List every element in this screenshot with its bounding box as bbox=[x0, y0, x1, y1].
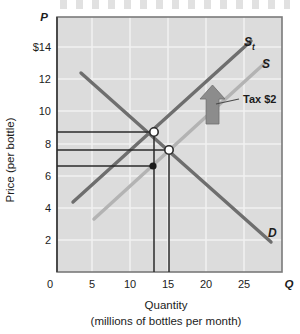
x-tick-label-15: 15 bbox=[162, 278, 174, 290]
curve-label-supply: S bbox=[262, 57, 270, 71]
curve-label-demand: D bbox=[268, 226, 277, 240]
x-tick-label-10: 10 bbox=[124, 278, 136, 290]
x-axis-title: Quantity bbox=[145, 299, 188, 311]
y-tick-label-8: 8 bbox=[45, 138, 51, 150]
marker-equilibrium-with-tax bbox=[150, 128, 158, 136]
tax-annotation-label: Tax $2 bbox=[243, 93, 276, 105]
marker-equilibrium-original bbox=[165, 146, 173, 154]
y-tick-label-10: 10 bbox=[39, 105, 51, 117]
y-axis-title: Price (per bottle) bbox=[4, 117, 16, 202]
y-tick-label-2: 2 bbox=[45, 234, 51, 246]
x-tick-label-25: 25 bbox=[238, 278, 250, 290]
y-tick-label-12: 12 bbox=[39, 73, 51, 85]
x-tick-label-0: 0 bbox=[47, 278, 53, 290]
x-tick-label-20: 20 bbox=[200, 278, 212, 290]
marker-price-received-by-sellers bbox=[149, 162, 156, 169]
y-tick-label-4: 4 bbox=[45, 202, 51, 214]
x-tick-label-5: 5 bbox=[89, 278, 95, 290]
x-axis-subtitle: (millions of bottles per month) bbox=[91, 315, 242, 327]
y-axis-symbol: P bbox=[40, 11, 48, 23]
y-tick-label-6: 6 bbox=[45, 170, 51, 182]
supply-demand-tax-chart: P Q $14 12 10 8 6 4 2 0 5 10 15 20 25 St… bbox=[0, 0, 300, 334]
chart-svg: P Q $14 12 10 8 6 4 2 0 5 10 15 20 25 St… bbox=[0, 0, 300, 334]
y-tick-label-14: $14 bbox=[33, 41, 51, 53]
x-axis-symbol: Q bbox=[285, 278, 294, 290]
